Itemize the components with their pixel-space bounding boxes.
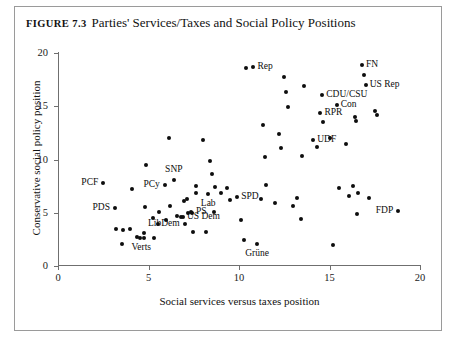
point-label-con: Con	[341, 99, 357, 109]
data-point	[362, 73, 366, 77]
data-point	[261, 123, 265, 127]
data-point	[114, 227, 118, 231]
data-point	[225, 186, 229, 190]
data-point	[239, 218, 243, 222]
data-point	[311, 138, 315, 142]
point-label-cdu-csu: CDU/CSU	[326, 89, 367, 99]
data-point	[208, 159, 212, 163]
x-tick-mark	[239, 266, 240, 270]
y-axis-title: Conservative social policy position	[30, 53, 42, 263]
y-tick-mark	[54, 53, 58, 54]
point-label-gr-ne: Grüne	[245, 248, 269, 258]
data-point	[286, 105, 290, 109]
data-point	[273, 201, 277, 205]
data-point	[355, 212, 359, 216]
x-axis-title: Social services versus taxes position	[58, 295, 421, 307]
x-tick-mark	[330, 266, 331, 270]
data-point	[282, 75, 286, 79]
point-label-fn: FN	[366, 59, 378, 69]
data-point	[264, 183, 268, 187]
data-point	[113, 206, 117, 210]
data-point	[194, 184, 198, 188]
data-point	[344, 142, 348, 146]
data-point	[101, 181, 105, 185]
point-label-pcf: PCF	[81, 177, 98, 187]
y-tick-mark	[54, 213, 58, 214]
data-point	[168, 204, 172, 208]
data-point	[291, 204, 295, 208]
data-point	[321, 120, 325, 124]
data-point	[295, 196, 299, 200]
scatter-plot-area: 0510152005101520 PCFPDSVertsPCySNPLibDem…	[0, 0, 453, 337]
data-point	[356, 191, 360, 195]
data-point	[347, 194, 351, 198]
point-label-fdp: FDP	[376, 205, 393, 215]
data-point	[163, 183, 167, 187]
data-point	[201, 138, 205, 142]
data-point	[167, 136, 171, 140]
data-point	[315, 145, 319, 149]
x-tick-label: 10	[227, 272, 251, 283]
data-point	[255, 242, 259, 246]
y-axis-line	[58, 52, 59, 266]
x-tick-mark	[58, 266, 59, 270]
data-point	[213, 185, 217, 189]
point-label-snp: SNP	[165, 164, 182, 174]
data-point	[157, 210, 161, 214]
data-point	[175, 214, 179, 218]
data-point	[206, 192, 210, 196]
x-tick-mark	[420, 266, 421, 270]
data-point	[183, 222, 187, 226]
point-label-libdem: LibDem	[148, 218, 180, 228]
point-label-spd: SPD	[241, 191, 258, 201]
data-point	[367, 196, 371, 200]
data-point	[300, 154, 304, 158]
data-point	[320, 93, 324, 97]
point-label-udf: UDF	[317, 134, 336, 144]
data-point	[144, 163, 148, 167]
point-label-rep: Rep	[257, 61, 272, 71]
data-point	[251, 65, 255, 69]
data-point	[263, 155, 267, 159]
data-point	[121, 228, 125, 232]
point-label-pds: PDS	[93, 202, 110, 212]
point-label-lab: Lab	[201, 198, 216, 208]
x-tick-label: 0	[46, 272, 70, 283]
point-label-pcy: PCy	[143, 179, 159, 189]
x-tick-label: 15	[318, 272, 342, 283]
x-tick-label: 20	[408, 272, 432, 283]
data-point	[152, 236, 156, 240]
y-tick-mark	[54, 106, 58, 107]
data-point	[128, 227, 132, 231]
data-point	[299, 217, 303, 221]
data-point	[210, 172, 214, 176]
data-point	[143, 205, 147, 209]
data-point	[375, 113, 379, 117]
data-point	[181, 215, 185, 219]
data-point	[130, 187, 134, 191]
data-point	[194, 191, 198, 195]
point-label-rpr: RPR	[324, 107, 342, 117]
data-point	[302, 84, 306, 88]
data-point	[354, 119, 358, 123]
data-point	[259, 197, 263, 201]
data-point	[364, 83, 368, 87]
data-point	[244, 66, 248, 70]
y-tick-mark	[54, 266, 58, 267]
figure-panel: Figure 7.3Parties' Services/Taxes and So…	[0, 0, 453, 337]
data-point	[337, 186, 341, 190]
y-tick-mark	[54, 160, 58, 161]
data-point	[185, 197, 189, 201]
point-label-verts: Verts	[131, 242, 151, 252]
data-point	[172, 178, 176, 182]
data-point	[331, 243, 335, 247]
data-point	[318, 111, 322, 115]
data-point	[142, 236, 146, 240]
x-tick-mark	[149, 266, 150, 270]
data-point	[351, 184, 355, 188]
data-point	[219, 191, 223, 195]
data-point	[120, 242, 124, 246]
data-point	[396, 209, 400, 213]
data-point	[360, 63, 364, 67]
data-point	[284, 90, 288, 94]
